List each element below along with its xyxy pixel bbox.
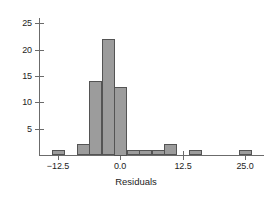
- y-axis-tick-label: 15: [0, 72, 32, 81]
- y-axis-tick: [35, 102, 44, 103]
- histogram-bar: [139, 150, 152, 155]
- x-axis-tick-label: −12.5: [28, 162, 88, 171]
- y-axis-tick-label: 25: [0, 19, 32, 28]
- histogram-bar: [52, 150, 65, 155]
- y-axis-line: [39, 18, 40, 156]
- histogram-bar: [114, 87, 127, 156]
- y-axis-tick: [35, 129, 44, 130]
- x-axis-line: [39, 155, 264, 156]
- y-axis-tick-label: 20: [0, 46, 32, 55]
- histogram-bar: [164, 144, 177, 155]
- x-axis-tick-label: 0.0: [90, 162, 150, 171]
- histogram-bar: [239, 150, 252, 155]
- x-axis-tick-label: 25.0: [215, 162, 272, 171]
- histogram-bar: [189, 150, 202, 155]
- plot-area: 510152025 −12.50.012.525.0 Residuals: [0, 0, 272, 202]
- y-axis-tick: [35, 50, 44, 51]
- y-axis-tick-label: 10: [0, 98, 32, 107]
- histogram-figure: 510152025 −12.50.012.525.0 Residuals: [0, 0, 272, 202]
- x-axis-tick-label: 12.5: [153, 162, 213, 171]
- histogram-bar: [89, 81, 102, 155]
- y-axis-tick-label: 5: [0, 125, 32, 134]
- x-axis-tick: [183, 151, 184, 160]
- y-axis-tick: [35, 76, 44, 77]
- y-axis-tick: [35, 23, 44, 24]
- x-axis-title: Residuals: [0, 177, 272, 187]
